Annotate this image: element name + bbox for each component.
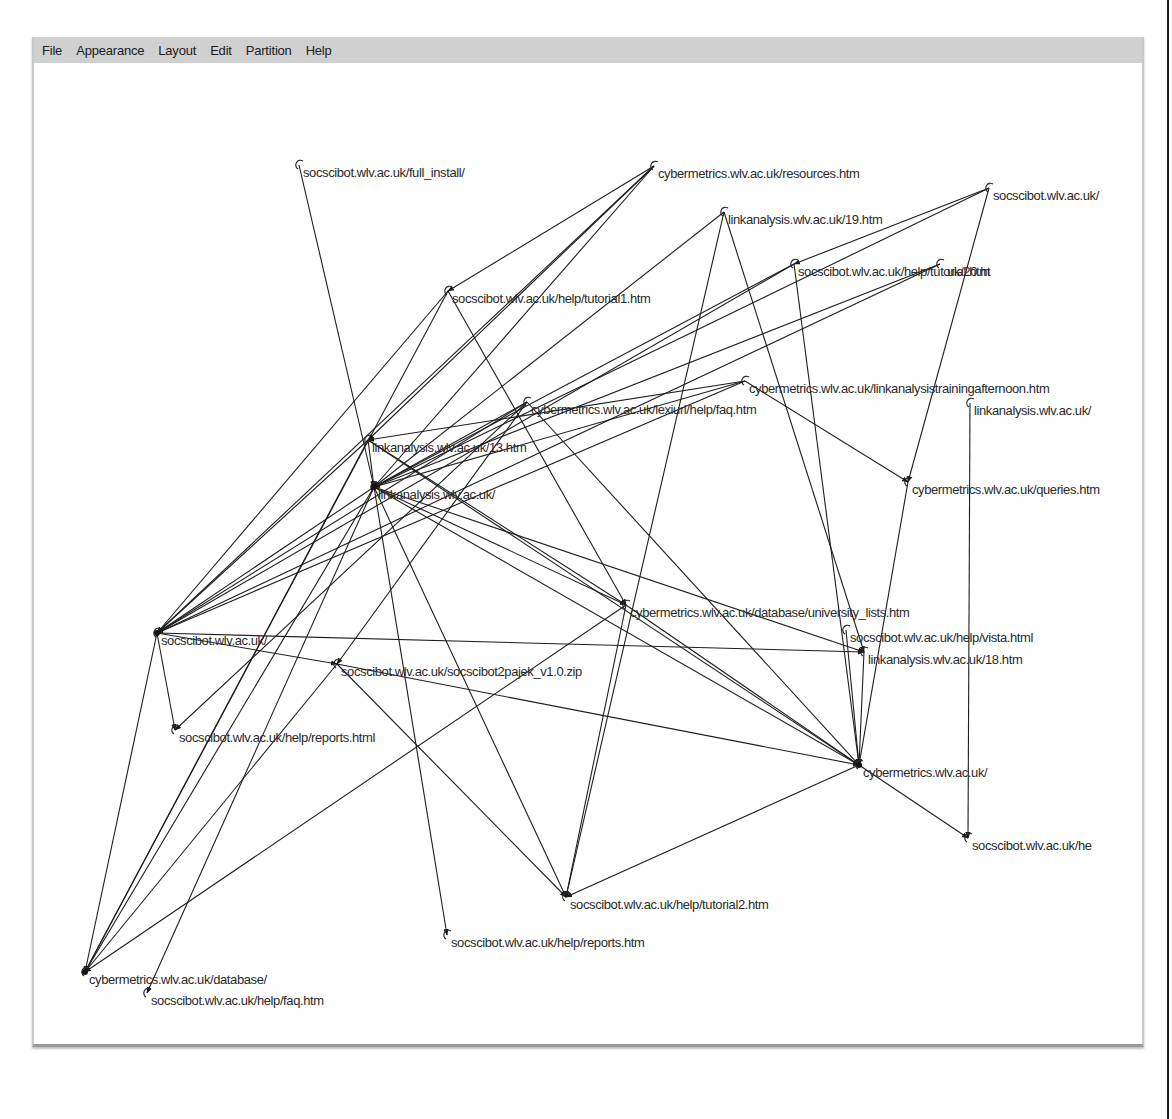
graph-edge	[85, 633, 157, 972]
node-label: socscibot.wlv.ac.uk/help/reports.html	[179, 730, 375, 745]
graph-edge	[566, 212, 724, 897]
graph-node[interactable]: linkanalysis.wlv.ac.uk/19.htm	[721, 207, 883, 227]
graph-edge	[157, 264, 940, 633]
graph-node[interactable]: .uk/20.ht	[937, 259, 991, 279]
node-marker-icon	[986, 183, 993, 192]
node-label: .uk/20.ht	[944, 264, 991, 279]
node-label: cybermetrics.wlv.ac.uk/resources.htm	[658, 166, 859, 181]
graph-node[interactable]: linkanalysis.wlv.ac.uk/18.htm	[861, 647, 1023, 667]
graph-node[interactable]: socscibot.wlv.ac.uk/help/tutorial2.htm	[563, 892, 769, 912]
graph-edge	[745, 381, 908, 482]
node-label: linkanalysis.wlv.ac.uk/18.htm	[868, 652, 1022, 667]
graph-node[interactable]: cybermetrics.wlv.ac.uk/database/universi…	[623, 600, 910, 620]
graph-node[interactable]: socscibot.wlv.ac.uk/he	[965, 833, 1092, 853]
node-label: socscibot.wlv.ac.uk/help/reports.htm	[451, 935, 644, 950]
node-label: cybermetrics.wlv.ac.uk/linkanalysistrain…	[749, 381, 1049, 396]
graph-node[interactable]: socscibot.wlv.ac.uk/socscibot2pajek_v1.0…	[334, 659, 582, 679]
node-label: cybermetrics.wlv.ac.uk/database/universi…	[630, 605, 910, 620]
graph-edge	[85, 605, 626, 972]
graph-edge	[157, 166, 654, 633]
graph-edge	[157, 402, 527, 633]
network-graph[interactable]: socscibot.wlv.ac.uk/full_install/cyberme…	[2, 0, 1172, 1119]
node-label: cybermetrics.wlv.ac.uk/lexiurl/help/faq.…	[531, 402, 756, 417]
graph-edge	[337, 664, 566, 897]
node-label: linkanalysis.wlv.ac.uk/	[378, 487, 496, 502]
graph-node[interactable]: socscibot.wlv.ac.uk/	[986, 183, 1100, 203]
graph-node[interactable]: cybermetrics.wlv.ac.uk/database/	[82, 967, 268, 987]
hub-node-dot-icon	[82, 969, 88, 975]
hub-node-dot-icon	[154, 630, 160, 636]
node-label: socscibot.wlv.ac.uk/	[161, 633, 268, 648]
node-label: cybermetrics.wlv.ac.uk/	[863, 765, 988, 780]
graph-edge	[374, 166, 654, 487]
graph-node[interactable]: socscibot.wlv.ac.uk/help/reports.html	[172, 725, 376, 745]
node-label: socscibot.wlv.ac.uk/help/tutorial1.htm	[452, 291, 650, 306]
graph-edge	[859, 482, 908, 765]
graph-node[interactable]: cybermetrics.wlv.ac.uk/queries.htm	[905, 477, 1100, 497]
node-label: linkanalysis.wlv.ac.uk/19.htm	[728, 212, 882, 227]
graph-node[interactable]: socscibot.wlv.ac.uk/help/reports.htm	[444, 930, 645, 950]
node-label: socscibot.wlv.ac.uk/help/vista.html	[850, 630, 1034, 645]
node-label: socscibot.wlv.ac.uk/he	[972, 838, 1092, 853]
node-label: socscibot.wlv.ac.uk/full_install/	[303, 165, 465, 180]
graph-edge	[908, 188, 989, 482]
graph-node[interactable]: socscibot.wlv.ac.uk/	[154, 628, 268, 648]
node-label: socscibot.wlv.ac.uk/	[993, 188, 1100, 203]
graph-node[interactable]: linkanalysis.wlv.ac.uk/13.htm	[365, 435, 527, 455]
node-label: cybermetrics.wlv.ac.uk/queries.htm	[912, 482, 1100, 497]
edge-layer	[85, 165, 989, 993]
node-label: cybermetrics.wlv.ac.uk/database/	[89, 972, 267, 987]
node-label: socscibot.wlv.ac.uk/help/tutorial2.htm	[570, 897, 768, 912]
graph-node[interactable]: linkanalysis.wlv.ac.uk/	[371, 482, 496, 502]
graph-edge	[566, 605, 626, 897]
graph-edge	[368, 440, 626, 605]
graph-edge	[566, 765, 859, 897]
graph-canvas[interactable]: socscibot.wlv.ac.uk/full_install/cyberme…	[34, 63, 1142, 1044]
hub-node-dot-icon	[371, 484, 377, 490]
graph-node[interactable]: cybermetrics.wlv.ac.uk/resources.htm	[651, 161, 860, 181]
node-label: socscibot.wlv.ac.uk/help/faq.htm	[151, 993, 324, 1008]
graph-edge	[157, 440, 368, 633]
node-label: linkanalysis.wlv.ac.uk/	[974, 403, 1092, 418]
graph-edge	[448, 166, 654, 291]
graph-node[interactable]: socscibot.wlv.ac.uk/help/faq.htm	[144, 988, 324, 1008]
graph-edge	[299, 165, 374, 487]
hub-node-dot-icon	[856, 762, 862, 768]
graph-edge	[794, 264, 859, 765]
graph-node[interactable]: socscibot.wlv.ac.uk/full_install/	[296, 160, 465, 180]
graph-node[interactable]: socscibot.wlv.ac.uk/help/tutorial1.htm	[445, 286, 651, 306]
graph-node[interactable]: linkanalysis.wlv.ac.uk/	[967, 398, 1092, 418]
graph-node[interactable]: socscibot.wlv.ac.uk/help/vista.html	[843, 625, 1034, 645]
node-label: linkanalysis.wlv.ac.uk/13.htm	[372, 440, 526, 455]
network-viewer-window: File Appearance Layout Edit Partition He…	[32, 37, 1144, 1047]
graph-edge	[846, 630, 859, 765]
graph-node[interactable]: cybermetrics.wlv.ac.uk/linkanalysistrain…	[742, 376, 1050, 396]
graph-edge	[374, 487, 626, 605]
graph-edge	[157, 291, 448, 633]
graph-edge	[374, 487, 447, 935]
graph-edge	[626, 605, 859, 765]
node-marker-icon	[651, 161, 658, 170]
graph-edge	[85, 664, 337, 972]
node-label: socscibot.wlv.ac.uk/socscibot2pajek_v1.0…	[341, 664, 582, 679]
